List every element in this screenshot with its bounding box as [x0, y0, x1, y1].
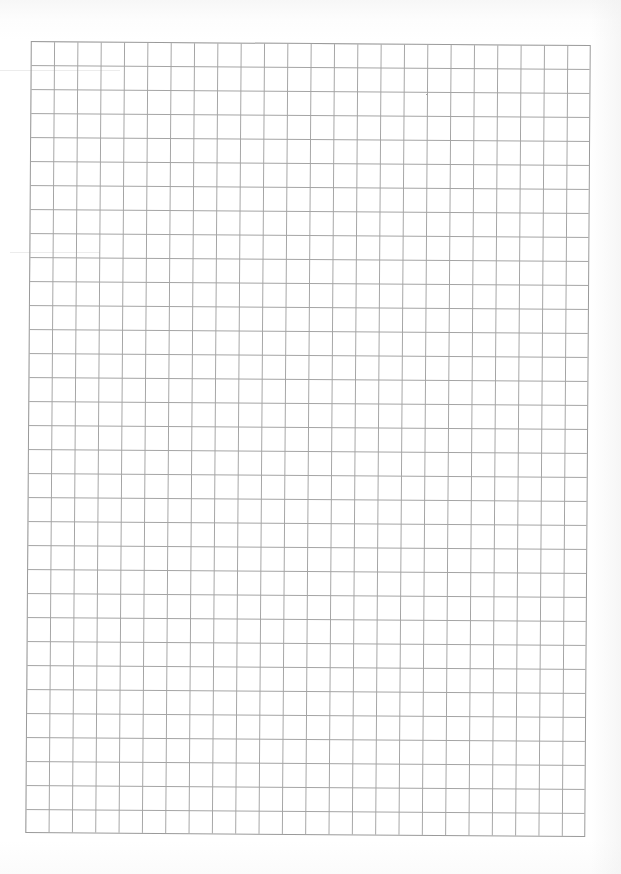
- grid-paper-page: [0, 0, 621, 874]
- square-grid: [25, 41, 591, 837]
